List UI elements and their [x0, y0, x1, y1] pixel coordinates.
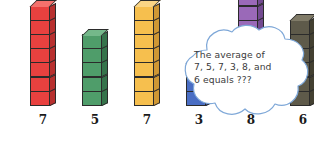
cube-front-face: [238, 6, 258, 21]
cube-front-face: [134, 20, 154, 35]
cube-tower: 7: [30, 2, 56, 127]
cube-tower: 5: [82, 30, 108, 127]
thought-bubble: The average of 7, 5, 7, 3, 8, and 6 equa…: [176, 22, 312, 126]
cube-front-face: [82, 91, 102, 106]
tower-value-label: 5: [82, 113, 108, 127]
cube-front-face: [82, 77, 102, 92]
cube-front-face: [30, 48, 50, 63]
cube-stack: [134, 2, 160, 105]
cube-front-face: [82, 48, 102, 63]
cube-side-face: [154, 88, 160, 106]
thought-bubble-text: The average of 7, 5, 7, 3, 8, and 6 equa…: [194, 49, 298, 86]
tower-value-label: 7: [30, 113, 56, 127]
cube-top-face: [290, 14, 314, 21]
cube-front-face: [134, 77, 154, 92]
tower-value-label: 7: [134, 113, 160, 127]
cube: [82, 91, 108, 106]
cube-front-face: [30, 62, 50, 77]
cube: [134, 91, 160, 106]
cube-front-face: [30, 91, 50, 106]
cube-front-face: [134, 6, 154, 21]
cube-side-face: [50, 88, 56, 106]
cube-front-face: [30, 20, 50, 35]
cube-front-face: [82, 34, 102, 49]
cube: [30, 91, 56, 106]
cube-front-face: [82, 62, 102, 77]
cube-tower-chart: 757386: [0, 0, 190, 149]
cube-tower: 7: [134, 2, 160, 127]
cube-front-face: [30, 34, 50, 49]
cube-side-face: [102, 88, 108, 106]
cube-front-face: [134, 91, 154, 106]
cube-front-face: [30, 77, 50, 92]
cube-front-face: [30, 6, 50, 21]
cube-front-face: [134, 34, 154, 49]
cube-front-face: [134, 48, 154, 63]
cube-stack: [82, 30, 108, 105]
illustration-canvas: 757386 The average of 7, 5, 7, 3, 8, and…: [0, 0, 314, 149]
cube-front-face: [134, 62, 154, 77]
cube-stack: [30, 2, 56, 105]
